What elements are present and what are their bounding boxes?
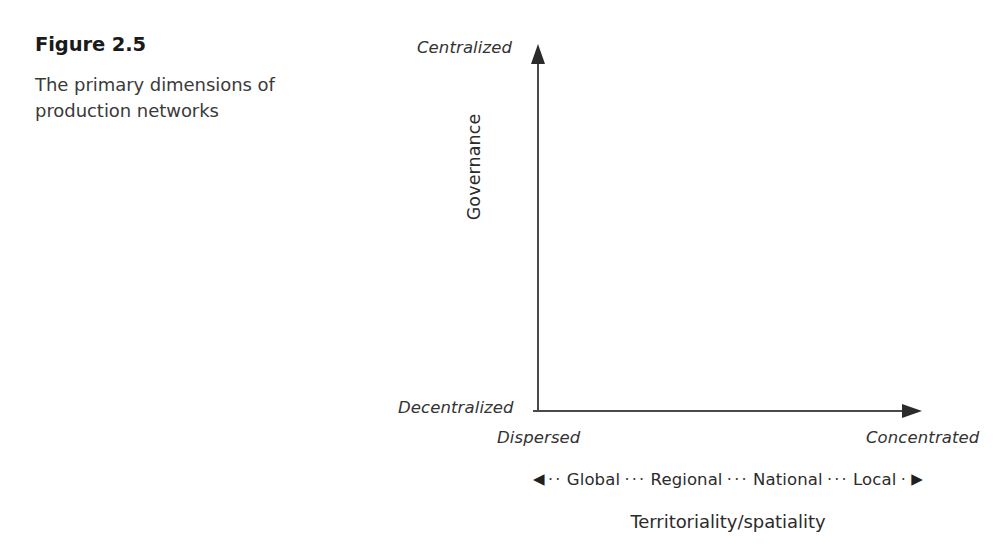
scale-label-local: Local (852, 470, 897, 489)
scale-label-national: National (752, 470, 824, 489)
spatial-scale-row: ◀ ·· Global ··· Regional ··· National ··… (533, 470, 923, 489)
y-axis-high-label: Centralized (417, 38, 512, 57)
scale-separator-dots: ··· (827, 470, 849, 489)
figure-caption-block: Figure 2.5 The primary dimensions of pro… (35, 33, 335, 124)
scale-separator-dots: ··· (624, 470, 646, 489)
scale-label-global: Global (566, 470, 621, 489)
y-axis-low-label: Decentralized (398, 398, 514, 417)
scale-separator-dots: ·· (548, 470, 563, 489)
x-axis-title: Territoriality/spatiality (533, 511, 923, 532)
scale-label-regional: Regional (650, 470, 724, 489)
figure-caption-text: The primary dimensions of production net… (35, 72, 335, 124)
x-axis-arrowhead (902, 404, 922, 418)
y-axis-arrowhead (531, 44, 545, 64)
x-axis-low-label: Dispersed (497, 428, 580, 447)
y-axis-title: Governance (464, 92, 484, 242)
scale-right-arrow-icon: ▶ (911, 472, 923, 487)
figure-number: Figure 2.5 (35, 33, 335, 56)
x-axis-high-label: Concentrated (866, 428, 979, 447)
scale-left-arrow-icon: ◀ (533, 472, 545, 487)
scale-separator-dots: ··· (727, 470, 749, 489)
scale-separator-dots: · (901, 470, 908, 489)
